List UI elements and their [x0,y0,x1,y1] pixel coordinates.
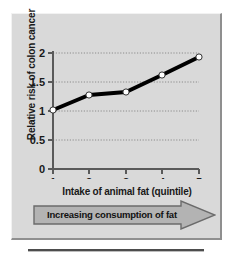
data-markers [50,54,202,113]
y-tick-label-1: 1 [39,105,45,117]
y-tick-label-0: 0 [39,163,45,175]
x-tick-label-2: 2 [86,176,92,179]
x-tick-label-3: 3 [123,176,129,179]
x-tick-label-4: 4 [159,176,166,179]
data-point-1 [50,107,56,113]
x-tick-label-1: 1 [50,176,56,179]
data-point-4 [159,72,165,78]
data-point-2 [86,92,92,98]
y-axis-title: Relative risk of colon cancer [26,7,37,142]
arrow-label: Increasing consumption of fat [39,209,185,220]
increasing-consumption-arrow: Increasing consumption of fat [33,200,216,230]
data-line-series-1 [53,57,199,110]
y-tick-label-2: 2 [39,47,45,59]
risk-line-chart: 2 1.5 1 0.5 0 1 2 3 4 5 [12,14,223,179]
data-point-5 [196,54,202,60]
x-tick-label-5: 5 [196,176,202,179]
figure-panel: 2 1.5 1 0.5 0 1 2 3 4 5 Relative risk of… [11,13,222,240]
chart-plot-area: 2 1.5 1 0.5 0 1 2 3 4 5 Relative risk of… [12,14,223,179]
data-point-3 [123,89,129,95]
bottom-divider [28,249,204,252]
x-axis-title: Intake of animal fat (quintile) [32,186,222,197]
